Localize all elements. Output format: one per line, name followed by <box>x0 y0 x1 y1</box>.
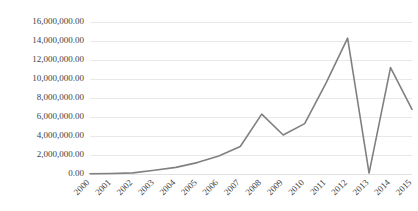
x-axis-tick-label: 2011 <box>308 177 328 197</box>
x-axis-tick-label: 2007 <box>222 177 242 197</box>
line-chart: 0.002,000,000.004,000,000.006,000,000.00… <box>0 0 418 211</box>
y-axis-tick-label: 12,000,000.00 <box>32 54 84 64</box>
x-axis-tick-label: 2014 <box>372 177 392 197</box>
x-axis-tick-label: 2003 <box>136 177 156 197</box>
x-axis-tick-label: 2008 <box>243 177 263 197</box>
x-axis-tick-labels: 2000200120022003200420052006200720082009… <box>72 177 414 197</box>
x-axis-tick-label: 2002 <box>115 177 135 197</box>
series-line <box>90 38 412 174</box>
y-axis-tick-label: 0.00 <box>68 168 84 178</box>
chart-canvas: 0.002,000,000.004,000,000.006,000,000.00… <box>0 0 418 211</box>
y-axis-tick-label: 10,000,000.00 <box>32 73 84 83</box>
data-series <box>90 38 412 174</box>
y-axis-tick-labels: 0.002,000,000.004,000,000.006,000,000.00… <box>32 16 84 178</box>
x-axis-tick-label: 2013 <box>351 177 371 197</box>
y-axis-tick-label: 4,000,000.00 <box>37 130 85 140</box>
x-axis-tick-label: 2009 <box>265 177 285 197</box>
x-axis-tick-label: 2005 <box>179 177 199 197</box>
y-axis-tick-label: 16,000,000.00 <box>32 16 84 26</box>
y-axis-tick-label: 2,000,000.00 <box>37 149 85 159</box>
gridlines <box>90 22 412 174</box>
y-axis-tick-label: 6,000,000.00 <box>37 111 85 121</box>
x-axis-tick-label: 2004 <box>157 177 177 197</box>
x-axis-tick-label: 2001 <box>93 177 113 197</box>
y-axis-tick-label: 8,000,000.00 <box>37 92 85 102</box>
x-axis-tick-label: 2015 <box>394 177 414 197</box>
x-axis-tick-label: 2010 <box>286 177 306 197</box>
x-axis-tick-label: 2000 <box>72 177 92 197</box>
y-axis-tick-label: 14,000,000.00 <box>32 35 84 45</box>
x-axis-tick-label: 2012 <box>329 177 349 197</box>
x-axis-tick-label: 2006 <box>200 177 220 197</box>
